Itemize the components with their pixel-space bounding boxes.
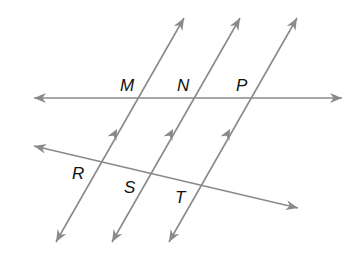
label-S: S [124,178,136,197]
line-NS-arrow-end [112,229,122,242]
label-N: N [177,76,190,95]
label-P: P [236,76,248,95]
line-NS-arrow-start [230,18,240,31]
label-M: M [120,76,135,95]
line-PT-parallel-mark [221,129,231,141]
line-MR-arrow-end [56,229,66,242]
line-MR [56,18,184,242]
line-MR-arrow-start [174,18,184,31]
label-T: T [175,188,187,207]
line-NS [112,18,240,242]
line-MR-parallel-mark [108,129,118,141]
line-PT-arrow-start [287,18,297,31]
line-NS-parallel-mark [164,129,174,141]
geometry-diagram: M N P R S T [0,0,364,254]
label-R: R [72,164,84,183]
line-PT-arrow-end [169,229,179,242]
line-PT [169,18,297,242]
